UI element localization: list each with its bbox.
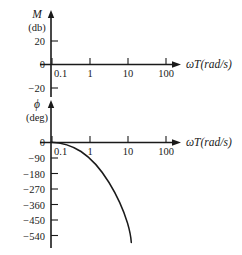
phase-xlabel-0.1: 0.1 [54,146,67,157]
phase-axis-unit: (deg) [26,112,49,124]
phase-ylabel-neg180: −180 [23,169,45,180]
magnitude-xlabel-100: 100 [158,68,174,79]
magnitude-y-axis-arrow-icon [48,10,54,18]
magnitude-xlabel-10: 10 [123,68,134,79]
magnitude-x-axis-arrow-icon [172,61,181,68]
phase-xlabel-100: 100 [158,146,174,157]
phase-xlabel-1: 1 [87,146,92,157]
magnitude-axis-symbol: M [31,8,43,20]
magnitude-ylabel-20: 20 [35,36,46,47]
phase-xlabel-10: 10 [123,146,134,157]
magnitude-xlabel-0.1: 0.1 [54,68,67,79]
phase-axis-symbol: ϕ [34,98,40,111]
phase-ylabel-neg90: −90 [29,153,45,164]
phase-ylabel-neg450: −450 [23,215,45,226]
phase-xaxis-label: ωT(rad/s) [186,136,232,149]
phase-ylabel-neg360: −360 [23,200,45,211]
magnitude-panel [40,10,181,97]
magnitude-ylabel-0: 0 [40,59,45,70]
phase-x-axis-arrow-icon [172,139,181,146]
plot-canvas: M (db) 20 0 −20 0.1 1 10 100 ωT(rad/s) ϕ… [0,0,242,255]
phase-ylabel-0: 0 [40,137,45,148]
magnitude-xaxis-label: ωT(rad/s) [186,58,232,71]
phase-ylabel-neg540: −540 [23,231,45,242]
phase-ylabel-neg270: −270 [23,184,45,195]
magnitude-axis-unit: (db) [28,22,46,34]
phase-response-curve [51,142,131,242]
phase-panel [40,100,181,248]
phase-y-axis-arrow-icon [48,100,54,108]
magnitude-xlabel-1: 1 [87,68,92,79]
magnitude-ylabel-neg20: −20 [29,83,45,94]
bode-plot-figure: M (db) 20 0 −20 0.1 1 10 100 ωT(rad/s) ϕ… [0,0,242,255]
